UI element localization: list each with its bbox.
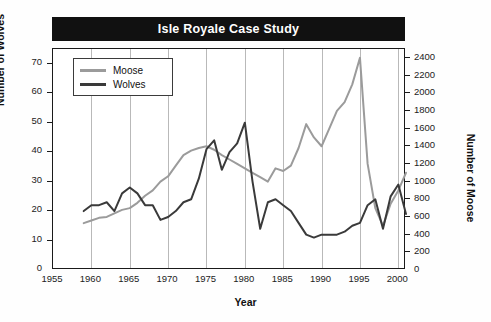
y-tick-right-1200: 1200 [414,157,454,168]
legend-item-wolves: Wolves [80,79,166,90]
y-tick-left-50: 50 [8,115,42,126]
y-tick-left-0: 0 [8,262,42,273]
y-tick-right-2400: 2400 [414,51,454,62]
x-tick-1995: 1995 [339,273,379,284]
x-tick-1965: 1965 [109,273,149,284]
series-line-wolves [84,123,406,238]
y-tick-right-600: 600 [414,210,454,221]
chart-title-banner: Isle Royale Case Study [52,17,405,41]
y-tick-right-800: 800 [414,192,454,203]
legend-swatch-wolves [80,83,106,86]
y-tick-right-1000: 1000 [414,175,454,186]
y-tick-left-60: 60 [8,85,42,96]
y-tick-left-40: 40 [8,144,42,155]
chart-title: Isle Royale Case Study [158,22,299,36]
y-tick-right-400: 400 [414,228,454,239]
x-tick-1985: 1985 [262,273,302,284]
y-tick-right-1600: 1600 [414,122,454,133]
y-tick-right-1400: 1400 [414,139,454,150]
y-tick-right-0: 0 [414,263,454,274]
y-tick-right-2000: 2000 [414,86,454,97]
legend-item-moose: Moose [80,65,166,76]
y-axis-left-label: Number of Wolves [0,0,6,120]
x-tick-2000: 2000 [377,273,417,284]
x-tick-1980: 1980 [224,273,264,284]
x-tick-1970: 1970 [147,273,187,284]
legend-label-moose: Moose [113,65,143,76]
x-axis-label: Year [0,296,491,308]
y-tick-left-30: 30 [8,174,42,185]
legend-swatch-moose [80,69,106,72]
chart-legend: Moose Wolves [73,58,173,96]
y-tick-left-20: 20 [8,203,42,214]
y-tick-left-70: 70 [8,56,42,67]
y-tick-right-2200: 2200 [414,69,454,80]
x-tick-1955: 1955 [32,273,72,284]
y-tick-right-200: 200 [414,245,454,256]
y-axis-right-label: Number of Moose [465,118,477,238]
x-tick-1960: 1960 [70,273,110,284]
x-tick-1975: 1975 [185,273,225,284]
y-tick-right-1800: 1800 [414,104,454,115]
chart-figure: Isle Royale Case Study Number of Wolves … [0,0,491,322]
legend-label-wolves: Wolves [113,79,146,90]
y-tick-left-10: 10 [8,233,42,244]
x-tick-1990: 1990 [301,273,341,284]
